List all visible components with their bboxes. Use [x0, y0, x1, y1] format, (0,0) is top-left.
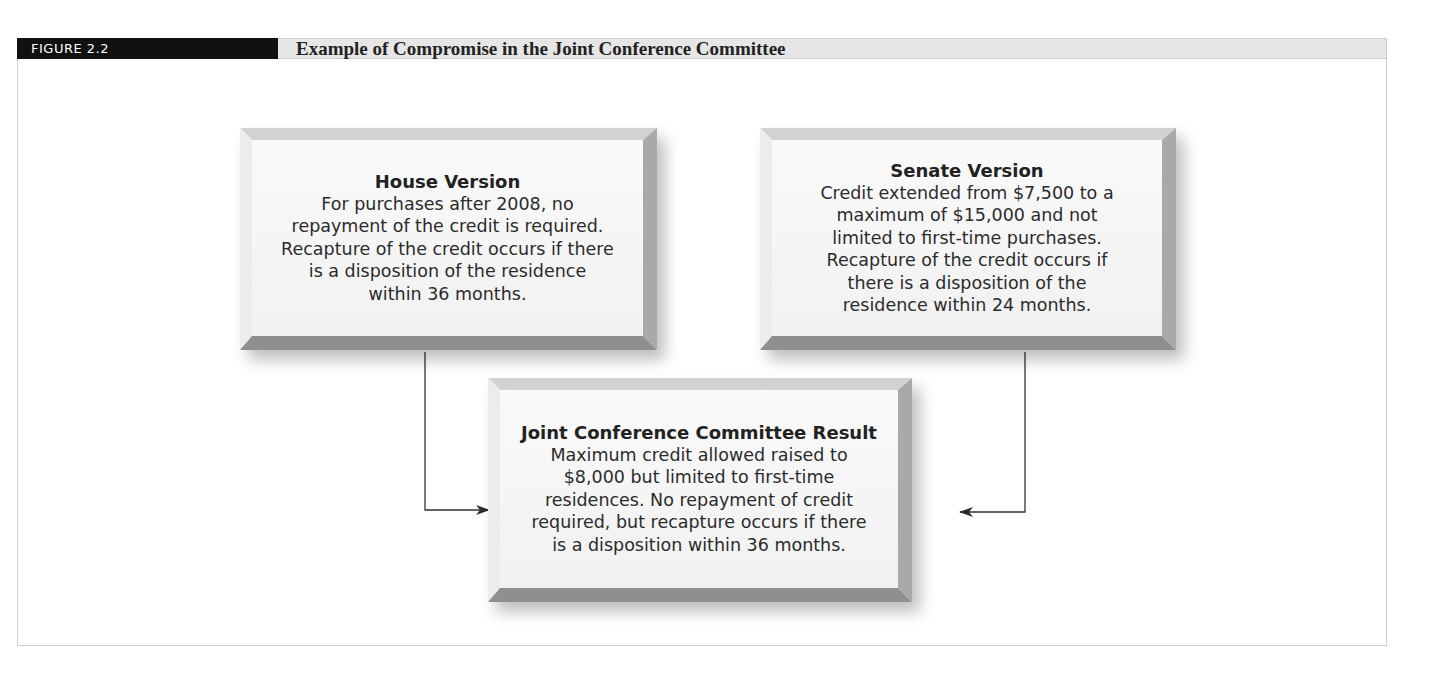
senate-version-line: maximum of $15,000 and not	[836, 204, 1097, 227]
committee-result-line: $8,000 but limited to first-time	[564, 466, 835, 489]
senate-version-line: there is a disposition of the	[848, 272, 1087, 295]
committee-result-line: required, but recapture occurs if there	[532, 511, 867, 534]
committee-result-line: is a disposition within 36 months.	[552, 534, 846, 557]
figure-title: Example of Compromise in the Joint Confe…	[296, 38, 786, 59]
house-version-line: repayment of the credit is required.	[292, 215, 604, 238]
senate-version-title: Senate Version	[890, 160, 1043, 182]
house-version-box: House Version For purchases after 2008, …	[240, 128, 657, 350]
senate-version-line: Credit extended from $7,500 to a	[820, 182, 1113, 205]
committee-result-box: Joint Conference Committee Result Maximu…	[488, 378, 912, 602]
senate-version-box: Senate Version Credit extended from $7,5…	[760, 128, 1176, 350]
house-version-line: within 36 months.	[369, 283, 527, 306]
committee-result-line: Maximum credit allowed raised to	[550, 444, 847, 467]
committee-result-title: Joint Conference Committee Result	[521, 422, 877, 444]
house-version-line: is a disposition of the residence	[309, 260, 586, 283]
figure-label: FIGURE 2.2	[17, 38, 278, 59]
senate-version-line: Recapture of the credit occurs if	[827, 249, 1108, 272]
senate-version-line: residence within 24 months.	[843, 294, 1091, 317]
house-version-line: Recapture of the credit occurs if there	[281, 238, 614, 261]
committee-result-line: residences. No repayment of credit	[545, 489, 853, 512]
senate-version-line: limited to first-time purchases.	[832, 227, 1102, 250]
house-version-title: House Version	[375, 171, 521, 193]
house-version-line: For purchases after 2008, no	[321, 193, 573, 216]
